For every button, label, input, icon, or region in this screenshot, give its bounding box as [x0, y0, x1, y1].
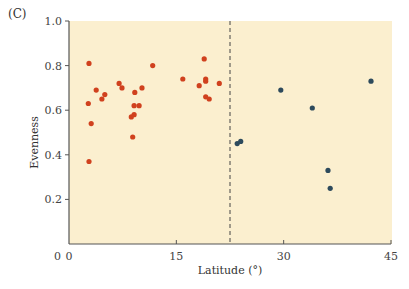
data-point-extratropical	[310, 105, 315, 110]
data-point-tropical	[132, 90, 137, 95]
y-axis-label: Evenness	[28, 116, 41, 169]
data-point-tropical	[119, 85, 124, 90]
x-tick-label: 30	[277, 250, 291, 263]
data-point-tropical	[203, 79, 208, 84]
data-point-tropical	[197, 83, 202, 88]
data-point-tropical	[89, 121, 94, 126]
data-point-extratropical	[328, 186, 333, 191]
y-tick-label: 0.2	[45, 193, 63, 206]
y-tick-label: 0.6	[45, 104, 63, 117]
scatter-chart: 0153045 00.20.40.60.81.0 Latitude (°) Ev…	[0, 0, 409, 289]
y-tick-label: 0.8	[45, 60, 63, 73]
data-point-extratropical	[278, 88, 283, 93]
data-point-extratropical	[368, 79, 373, 84]
data-point-tropical	[94, 88, 99, 93]
data-point-tropical	[99, 96, 104, 101]
data-point-tropical	[102, 92, 107, 97]
data-point-tropical	[207, 96, 212, 101]
data-point-tropical	[86, 61, 91, 66]
data-point-tropical	[86, 101, 91, 106]
data-point-tropical	[139, 85, 144, 90]
x-tick-label: 15	[169, 250, 183, 263]
data-point-tropical	[86, 159, 91, 164]
data-point-extratropical	[238, 139, 243, 144]
y-tick-label: 0.4	[45, 149, 63, 162]
data-point-tropical	[217, 81, 222, 86]
data-point-tropical	[132, 103, 137, 108]
data-point-tropical	[129, 114, 134, 119]
y-tick-label: 0	[54, 250, 61, 263]
x-tick-label: 45	[384, 250, 398, 263]
y-axis-ticks: 00.20.40.60.81.0	[45, 15, 70, 263]
data-point-tropical	[150, 63, 155, 68]
data-point-tropical	[117, 81, 122, 86]
data-point-tropical	[180, 76, 185, 81]
data-point-tropical	[137, 103, 142, 108]
data-point-tropical	[202, 56, 207, 61]
data-point-tropical	[130, 134, 135, 139]
data-point-extratropical	[325, 168, 330, 173]
x-axis-label: Latitude (°)	[198, 264, 262, 277]
y-tick-label: 1.0	[45, 15, 63, 28]
x-tick-label: 0	[66, 250, 73, 263]
